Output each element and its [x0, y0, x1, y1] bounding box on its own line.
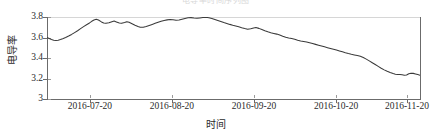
- plot-area: [47, 17, 420, 99]
- y-tick-label: 3.8: [5, 12, 43, 21]
- chart-title-clipped: 电导率时间序列图: [0, 0, 431, 4]
- y-tick-inner: [48, 99, 51, 100]
- y-tick-label: 3: [5, 94, 43, 103]
- conductivity-series-line: [47, 17, 420, 75]
- x-tick-label: 2016-07-20: [45, 101, 135, 111]
- x-tick-label: 2016-09-20: [209, 101, 299, 111]
- x-tick-label: 2016-11-20: [362, 101, 431, 111]
- x-axis-title: 时间: [0, 116, 431, 131]
- y-axis-title: 电导率: [4, 27, 19, 73]
- x-tick-label: 2016-08-20: [127, 101, 217, 111]
- plot-right-border: [420, 17, 421, 100]
- series-svg: [47, 17, 420, 99]
- y-tick: [43, 99, 47, 100]
- y-tick-label: 3.2: [5, 74, 43, 83]
- x-axis-line: [47, 99, 421, 100]
- chart-figure: 电导率时间序列图 33.23.43.63.8 2016-07-202016-08…: [0, 0, 431, 136]
